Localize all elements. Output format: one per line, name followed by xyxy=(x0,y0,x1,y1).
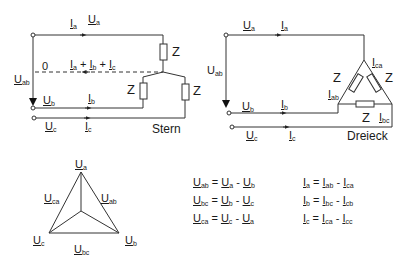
label-neutral: 0 xyxy=(42,61,48,72)
label-phasor-Uab: Uab xyxy=(101,193,117,207)
label-neutral-current: Ia + Ib + Ic xyxy=(70,59,116,73)
caption-delta: Dreieck xyxy=(347,130,388,142)
label-phasor-Ua: Ua xyxy=(75,159,87,173)
label-delta-Uab: Uab xyxy=(207,65,223,79)
label-star-Uc: Uc xyxy=(45,121,56,135)
equation-Ib: Ib = Ibc - Icb xyxy=(303,195,353,209)
label-star-Ic: Ic xyxy=(85,121,92,135)
label-phasor-Uc: Uc xyxy=(33,235,44,249)
equation-Ubc: Ubc = Ub - Uc xyxy=(193,195,254,209)
label-delta-Ica: Ica xyxy=(372,57,382,71)
label-delta-Z1: Z xyxy=(333,72,341,83)
caption-star: Stern xyxy=(152,123,181,135)
label-star-Z3: Z xyxy=(193,85,201,96)
label-star-Z2: Z xyxy=(127,84,135,95)
label-delta-Z2: Z xyxy=(385,72,393,83)
label-delta-Ib: Ib xyxy=(281,99,288,113)
label-star-Ub: Ub xyxy=(43,95,55,109)
label-delta-Ia: Ia xyxy=(281,20,288,34)
label-delta-Ua: Ua xyxy=(243,20,255,34)
label-star-Ib: Ib xyxy=(88,93,95,107)
label-delta-Uc: Uc xyxy=(246,130,257,144)
label-delta-Ub: Ub xyxy=(242,101,254,115)
label-phasor-Ub: Ub xyxy=(125,235,137,249)
label-star-Ia: Ia xyxy=(70,18,77,32)
label-delta-Ibc: Ibc xyxy=(379,112,389,126)
label-phasor-Uca: Uca xyxy=(44,193,59,207)
equation-Uab: Uab = Ua - Ub xyxy=(193,177,255,191)
label-star-Uab: Uab xyxy=(14,74,30,88)
equation-Ia: Ia = Iab - Ica xyxy=(303,177,354,191)
label-delta-Ic: Ic xyxy=(289,130,296,144)
equation-Uca: Uca = Uc - Ua xyxy=(193,213,254,227)
label-delta-Z3: Z xyxy=(362,112,370,123)
label-delta-Iab: Iab xyxy=(328,89,339,103)
label-phasor-Ubc: Ubc xyxy=(74,244,89,258)
label-star-Z1: Z xyxy=(172,46,180,57)
equation-Ic: Ic = Ica - Icc xyxy=(303,213,352,227)
label-star-Ua: Ua xyxy=(88,14,100,28)
